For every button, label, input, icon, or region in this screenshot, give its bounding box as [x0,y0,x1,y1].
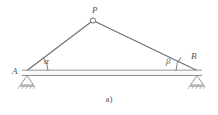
beam-body [22,71,202,75]
pin-support-B [188,76,205,90]
figure-caption: a) [0,95,218,104]
edge-A-to-P [27,21,93,71]
angle-label-beta: β [166,57,170,66]
vertex-label-A: A [12,67,18,76]
figure-container: P A B α β a) [0,0,218,115]
edge-P-to-B [93,21,197,71]
baseline-beam-AB [22,70,202,75]
vertex-label-B: B [191,52,197,61]
vertex-marker-P [90,18,95,23]
vertex-label-P: P [92,6,98,15]
angle-label-alpha: α [44,57,49,66]
angle-arc-beta [176,57,181,70]
pin-support-A [18,76,35,90]
